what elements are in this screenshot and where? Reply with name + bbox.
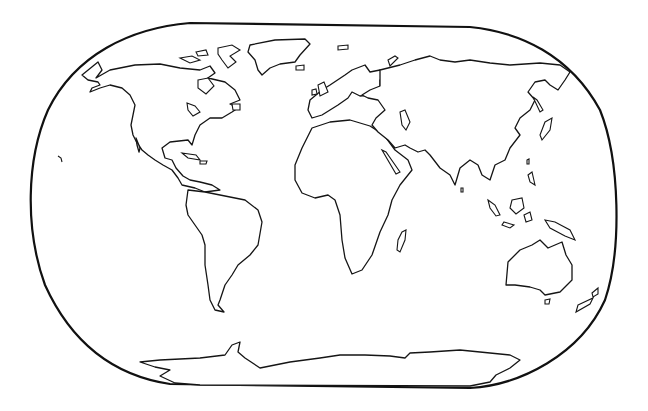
tasmania [545,299,550,304]
world-map [0,0,648,411]
world-map-outline [0,0,648,411]
newfoundland [232,104,240,110]
taiwan [527,159,529,164]
sri-lanka [461,188,463,192]
iceland [296,65,304,70]
ireland [312,89,317,95]
svalbard [338,45,348,50]
hispaniola [200,161,207,164]
